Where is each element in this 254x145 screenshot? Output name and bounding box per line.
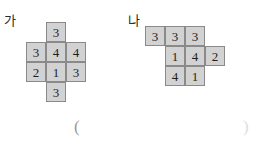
grid-cell: 4 — [165, 66, 185, 86]
figure-label-0: 가 — [4, 14, 16, 27]
grid-cell: 4 — [46, 42, 66, 62]
grid-cell: 3 — [46, 82, 66, 102]
grid-cell: 3 — [66, 62, 86, 82]
grid-cell: 3 — [46, 22, 66, 42]
grid-cell: 2 — [26, 62, 46, 82]
grid-cell: 3 — [185, 26, 205, 46]
grid-cell: 2 — [205, 46, 225, 66]
grid-cell: 1 — [165, 46, 185, 66]
grid-cell: 1 — [185, 66, 205, 86]
grid-cell: 1 — [46, 62, 66, 82]
figure-label-1: 나 — [128, 14, 140, 27]
grid-cell: 3 — [165, 26, 185, 46]
grid-cell: 3 — [26, 42, 46, 62]
answer-open-paren: ( — [74, 118, 80, 135]
worksheet-figure-page: 가33442133나33314241 ( ) — [0, 0, 254, 145]
grid-cell: 4 — [185, 46, 205, 66]
grid-cell: 3 — [145, 26, 165, 46]
answer-close-paren: ) — [243, 118, 249, 135]
grid-cell: 4 — [66, 42, 86, 62]
